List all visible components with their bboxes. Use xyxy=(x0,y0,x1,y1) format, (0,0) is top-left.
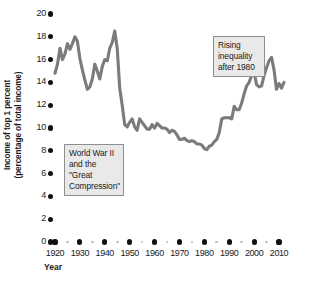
annotation-rising-inequality: Rising inequality after 1980 xyxy=(213,36,265,77)
income-inequality-chart: Income of top 1 percent (percentage of t… xyxy=(0,0,311,292)
annotation-world-war-2: World War II and the "Great Compression" xyxy=(64,144,124,196)
